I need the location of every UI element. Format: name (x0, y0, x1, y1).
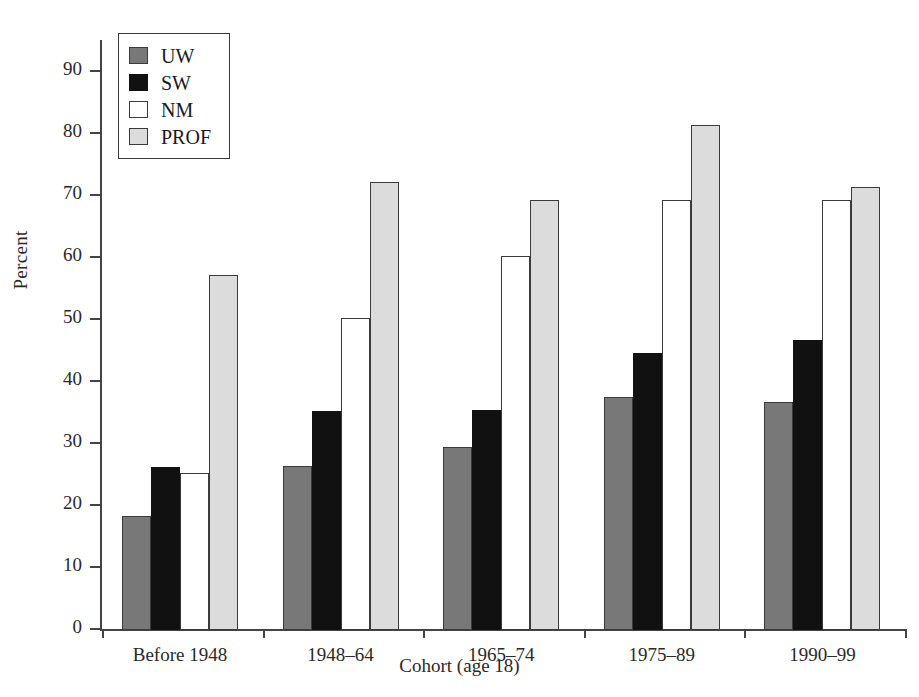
y-tick-label: 90 (36, 58, 82, 80)
legend-label-uw: UW (161, 46, 194, 66)
legend-label-nm: NM (161, 100, 193, 120)
y-tick-label: 50 (36, 306, 82, 328)
y-tick-mark (90, 442, 100, 444)
y-tick-label: 60 (36, 244, 82, 266)
y-tick-mark (90, 132, 100, 134)
x-tick-mark (102, 629, 104, 638)
bar-uw-0 (122, 516, 151, 630)
y-tick-label: 80 (36, 120, 82, 142)
x-tick-mark (905, 629, 907, 638)
y-tick-mark (90, 194, 100, 196)
x-tick-mark (263, 629, 265, 638)
x-tick-mark (584, 629, 586, 638)
legend-swatch-sw (129, 74, 148, 91)
bar-nm-1 (341, 318, 370, 630)
legend-item-uw: UW (129, 42, 211, 69)
y-axis-ticks: 0102030405060708090 (40, 40, 100, 631)
y-tick-label: 40 (36, 368, 82, 390)
bar-group (443, 40, 559, 630)
bar-nm-2 (501, 256, 530, 630)
bar-nm-3 (662, 200, 691, 630)
y-tick-mark (90, 504, 100, 506)
legend-item-sw: SW (129, 69, 211, 96)
bar-sw-3 (633, 353, 662, 630)
bar-nm-0 (180, 473, 209, 630)
bar-nm-4 (822, 200, 851, 630)
y-tick-label: 20 (36, 492, 82, 514)
legend-item-prof: PROF (129, 123, 211, 150)
bar-prof-4 (851, 187, 880, 630)
bar-prof-1 (370, 182, 399, 630)
bar-prof-0 (209, 275, 238, 630)
bar-uw-4 (764, 402, 793, 630)
bar-sw-2 (472, 410, 501, 630)
bar-uw-2 (443, 447, 472, 630)
y-tick-mark (90, 566, 100, 568)
bar-sw-1 (312, 411, 341, 630)
y-tick-label: 10 (36, 554, 82, 576)
x-axis-title: Cohort (age 18) (0, 655, 919, 677)
x-tick-mark (423, 629, 425, 638)
y-tick-label: 30 (36, 430, 82, 452)
bar-uw-1 (283, 466, 312, 630)
y-tick-mark (90, 318, 100, 320)
legend-label-sw: SW (161, 73, 191, 93)
y-tick-mark (90, 380, 100, 382)
bar-chart-figure: Percent 0102030405060708090 Before 19481… (0, 0, 919, 697)
bar-prof-3 (691, 125, 720, 630)
y-tick-mark (90, 70, 100, 72)
bar-prof-2 (530, 200, 559, 630)
bar-uw-3 (604, 397, 633, 630)
legend-swatch-uw (129, 47, 148, 64)
legend-swatch-nm (129, 101, 148, 118)
legend-label-prof: PROF (161, 127, 211, 147)
x-tick-mark (744, 629, 746, 638)
y-tick-label: 70 (36, 182, 82, 204)
bar-group (764, 40, 880, 630)
legend-swatch-prof (129, 128, 148, 145)
legend: UW SW NM PROF (118, 33, 230, 159)
y-tick-mark (90, 628, 100, 630)
bar-sw-0 (151, 467, 180, 630)
y-tick-label: 0 (36, 616, 82, 638)
legend-item-nm: NM (129, 96, 211, 123)
bar-sw-4 (793, 340, 822, 630)
bar-group (604, 40, 720, 630)
bar-group (283, 40, 399, 630)
y-tick-mark (90, 256, 100, 258)
